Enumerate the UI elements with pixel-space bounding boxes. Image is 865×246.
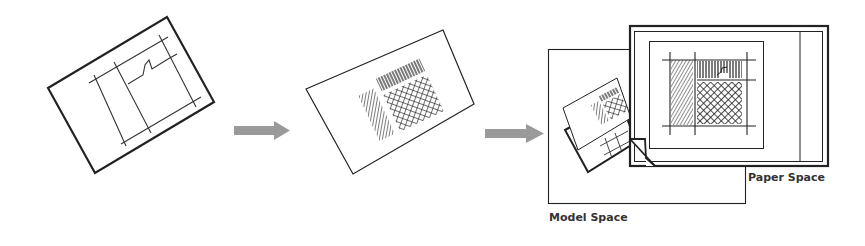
- viewport-content: [662, 52, 756, 135]
- arrow-right-icon: [485, 124, 544, 143]
- crosshatch-area: [697, 82, 742, 124]
- paper-space: [630, 26, 828, 166]
- arrow-right-icon: [234, 121, 290, 140]
- diagram-canvas: [0, 0, 865, 246]
- hatched-sheet: [306, 30, 474, 174]
- paper-space-label: Paper Space: [748, 171, 825, 184]
- diagonal-hatch-area: [671, 60, 693, 125]
- model-space-label: Model Space: [549, 211, 628, 224]
- drawing-sheet: [48, 17, 214, 173]
